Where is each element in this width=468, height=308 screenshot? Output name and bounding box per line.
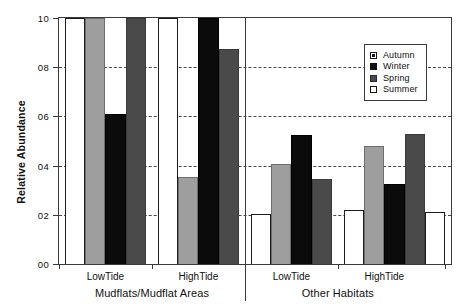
y-axis-tick-label: 10 (38, 13, 49, 24)
legend-item-autumn: Autumn (370, 50, 418, 61)
y-axis-tick: 06 (53, 116, 59, 117)
legend-label: Winter (383, 62, 410, 71)
x-axis-group-label: Other Habitats (302, 287, 374, 299)
bar-trailing-autumn (425, 212, 445, 264)
bar-other-habitats-hightide-spring (384, 184, 404, 264)
y-axis-tick: 04 (53, 166, 59, 167)
x-axis-tick (338, 264, 339, 269)
legend-item-spring: Spring (370, 73, 418, 84)
legend-swatch-autumn-icon (370, 52, 377, 59)
super-group-separator (245, 18, 246, 264)
legend-label: Autumn (383, 51, 415, 60)
bar-other-habitats-hightide-summer (405, 134, 425, 264)
bar-mudflats-mudflat-areas-lowtide-spring (105, 114, 125, 264)
bar-other-habitats-lowtide-winter (271, 164, 291, 264)
bar-mudflats-mudflat-areas-hightide-autumn (158, 18, 178, 264)
legend-swatch-summer-icon (370, 86, 377, 93)
y-axis-tick: 08 (53, 67, 59, 68)
y-axis-tick-label: 06 (38, 111, 49, 122)
chart-legend: AutumnWinterSpringSummer (364, 44, 427, 101)
x-axis-tick-label: LowTide (273, 271, 310, 282)
x-axis-tick (152, 264, 153, 269)
legend-swatch-spring-icon (370, 75, 377, 82)
y-axis-tick-label: 00 (38, 259, 49, 270)
bar-mudflats-mudflat-areas-hightide-winter (178, 177, 198, 264)
y-axis-tick-label: 04 (38, 161, 49, 172)
legend-label: Spring (383, 74, 410, 83)
bar-other-habitats-lowtide-spring (291, 135, 311, 264)
legend-swatch-winter-icon (370, 63, 377, 70)
bar-other-habitats-hightide-winter (364, 146, 384, 264)
x-axis-tick-label: HighTide (364, 271, 404, 282)
x-axis-tick (59, 264, 60, 269)
x-axis-tick-label: HighTide (179, 271, 219, 282)
bar-other-habitats-lowtide-summer (312, 179, 332, 264)
bar-mudflats-mudflat-areas-lowtide-winter (85, 18, 105, 264)
legend-item-summer: Summer (370, 84, 418, 95)
bar-mudflats-mudflat-areas-hightide-spring (198, 18, 218, 264)
legend-item-winter: Winter (370, 61, 418, 72)
bar-mudflats-mudflat-areas-lowtide-autumn (65, 18, 85, 264)
bar-other-habitats-hightide-autumn (344, 210, 364, 264)
y-axis-tick-label: 02 (38, 210, 49, 221)
super-group-separator-bottom (245, 263, 246, 301)
bar-chart-figure: Relative Abundance 100806040200 AutumnWi… (0, 0, 468, 308)
x-axis-tick (445, 264, 446, 269)
x-axis-group-label: Mudflats/Mudflat Areas (95, 287, 209, 299)
bar-other-habitats-lowtide-autumn (251, 214, 271, 264)
legend-label: Summer (383, 85, 418, 94)
bar-mudflats-mudflat-areas-hightide-summer (219, 49, 239, 264)
bar-mudflats-mudflat-areas-lowtide-summer (126, 18, 146, 264)
y-axis-tick: 02 (53, 215, 59, 216)
y-axis-tick: 10 (53, 18, 59, 19)
y-axis-tick-label: 08 (38, 62, 49, 73)
x-axis-tick-label: LowTide (87, 271, 124, 282)
y-axis-title: Relative Abundance (15, 62, 27, 242)
